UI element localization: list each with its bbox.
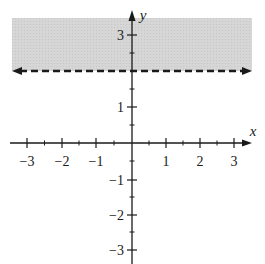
y-tick-label: 1: [117, 100, 124, 115]
y-tick-label: −2: [109, 208, 124, 223]
x-tick-label: −1: [89, 154, 104, 169]
y-tick-label: −3: [109, 243, 124, 258]
y-tick-label: 3: [117, 28, 124, 43]
x-tick-label: 1: [163, 154, 170, 169]
x-axis: −3 −2 −1 1 2 3 x: [10, 123, 257, 169]
y-tick-label: −1: [109, 173, 124, 188]
coordinate-plane: −3 −2 −1 1 2 3 x 3 1 −1 −2 −3 y: [0, 0, 265, 264]
x-axis-arrow-icon: [242, 140, 252, 147]
y-axis-arrow-icon: [129, 10, 136, 21]
y-axis-label: y: [138, 7, 147, 23]
x-tick-label: 2: [197, 154, 204, 169]
x-axis-label: x: [249, 123, 257, 139]
x-tick-label: −2: [55, 154, 70, 169]
x-tick-label: −3: [20, 154, 35, 169]
x-tick-label: 3: [231, 154, 238, 169]
